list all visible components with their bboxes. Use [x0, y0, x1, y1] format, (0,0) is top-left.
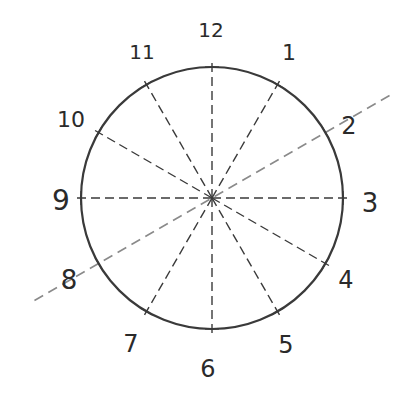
- clock-spokes: [73, 59, 351, 337]
- clock-diagram: 121234567891011: [0, 0, 408, 394]
- spoke-1: [212, 78, 282, 198]
- hour-label-2: 2: [341, 112, 356, 140]
- hour-label-1: 1: [282, 40, 296, 65]
- hour-label-6: 6: [200, 355, 215, 383]
- hour-label-12: 12: [198, 18, 223, 42]
- tick-4: [322, 257, 329, 269]
- tick-7: [140, 308, 152, 315]
- spoke-7: [143, 198, 213, 318]
- hour-label-10: 10: [57, 107, 85, 132]
- hour-label-11: 11: [129, 40, 154, 64]
- tick-8: [95, 257, 102, 269]
- spoke-5: [212, 198, 282, 318]
- hour-label-5: 5: [278, 331, 293, 359]
- tick-2: [322, 126, 329, 138]
- spoke-10: [92, 129, 212, 199]
- hour-label-3: 3: [362, 188, 379, 218]
- hour-label-9: 9: [52, 184, 70, 217]
- tick-1: [271, 81, 283, 88]
- tick-5: [271, 308, 283, 315]
- hour-label-7: 7: [123, 330, 138, 358]
- hour-label-4: 4: [338, 266, 353, 294]
- spoke-4: [212, 198, 332, 268]
- tick-11: [140, 81, 152, 88]
- tick-10: [95, 126, 102, 138]
- hour-label-8: 8: [61, 265, 78, 295]
- spoke-11: [143, 78, 213, 198]
